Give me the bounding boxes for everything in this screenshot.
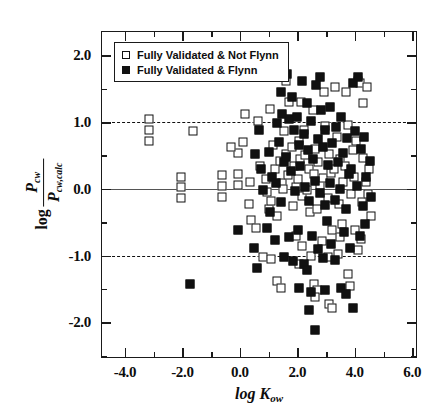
data-point-filled bbox=[307, 116, 316, 125]
data-point-filled bbox=[294, 283, 303, 292]
data-point-open bbox=[280, 127, 289, 136]
data-point-filled bbox=[320, 286, 329, 295]
y-axis-title: logPcwPcw,calc bbox=[23, 158, 64, 229]
filled-square-marker-icon bbox=[122, 66, 130, 74]
data-point-filled bbox=[332, 123, 341, 132]
x-tick-minor bbox=[326, 352, 328, 357]
x-tick-major bbox=[182, 348, 184, 357]
data-point-filled bbox=[356, 144, 365, 153]
data-point-filled bbox=[327, 239, 336, 248]
y-tick-label: 0.0 bbox=[73, 180, 91, 197]
data-point-filled bbox=[259, 186, 268, 195]
data-point-filled bbox=[334, 158, 343, 167]
x-tick-label: 0.0 bbox=[231, 364, 249, 381]
data-point-open bbox=[297, 242, 306, 251]
y-axis-denominator: Pcw,calc bbox=[44, 158, 64, 206]
data-point-open bbox=[218, 192, 227, 201]
data-point-open bbox=[244, 199, 253, 208]
data-point-filled bbox=[276, 198, 285, 207]
data-point-filled bbox=[309, 155, 318, 164]
x-axis-title: log Kow bbox=[101, 385, 417, 404]
data-point-filled bbox=[263, 223, 272, 232]
data-point-filled bbox=[318, 254, 327, 263]
data-point-filled bbox=[305, 196, 314, 205]
legend-label-flynn: Fully Validated & Flynn bbox=[137, 64, 257, 76]
data-point-filled bbox=[301, 183, 310, 192]
x-tick-minor bbox=[269, 32, 271, 37]
data-point-filled bbox=[307, 288, 316, 297]
y-tick-label: -2.0 bbox=[68, 314, 91, 331]
y-axis-fraction: PcwPcw,calc bbox=[23, 158, 64, 206]
data-point-filled bbox=[355, 231, 364, 240]
data-point-open bbox=[251, 223, 260, 232]
legend-item-flynn: Fully Validated & Flynn bbox=[122, 62, 279, 77]
data-point-filled bbox=[346, 243, 355, 252]
data-point-filled bbox=[335, 184, 344, 193]
data-point-filled bbox=[322, 216, 331, 225]
y-axis-numerator: Pcw bbox=[23, 158, 44, 206]
data-point-open bbox=[327, 226, 336, 235]
data-point-filled bbox=[279, 252, 288, 261]
data-point-open bbox=[145, 126, 154, 135]
data-point-filled bbox=[362, 172, 371, 181]
data-point-filled bbox=[257, 164, 266, 173]
y-tick-label: -1.0 bbox=[68, 247, 91, 264]
data-point-open bbox=[319, 88, 328, 97]
x-tick-major bbox=[297, 32, 299, 41]
y-tick-minor bbox=[411, 222, 416, 224]
y-tick-label: 2.0 bbox=[73, 47, 91, 64]
data-point-filled bbox=[302, 99, 311, 108]
data-point-open bbox=[358, 99, 367, 108]
data-point-filled bbox=[330, 195, 339, 204]
data-point-filled bbox=[294, 140, 303, 149]
y-tick-major bbox=[102, 322, 111, 324]
y-tick-major bbox=[102, 256, 111, 258]
y-tick-major bbox=[102, 55, 111, 57]
data-point-filled bbox=[303, 266, 312, 275]
legend-item-not-flynn: Fully Validated & Not Flynn bbox=[122, 47, 279, 62]
data-point-open bbox=[276, 283, 285, 292]
data-point-filled bbox=[311, 326, 320, 335]
data-point-open bbox=[189, 127, 198, 136]
x-tick-major bbox=[182, 32, 184, 41]
open-square-marker-icon bbox=[122, 51, 130, 59]
data-point-filled bbox=[315, 72, 324, 81]
data-point-filled bbox=[347, 164, 356, 173]
data-point-open bbox=[218, 182, 227, 191]
x-tick-label: 6.0 bbox=[403, 364, 421, 381]
data-point-open bbox=[234, 180, 243, 189]
y-tick-minor bbox=[102, 289, 107, 291]
chart-legend: Fully Validated & Not Flynn Fully Valida… bbox=[114, 42, 289, 82]
data-point-open bbox=[234, 170, 243, 179]
data-point-filled bbox=[358, 202, 367, 211]
data-point-filled bbox=[274, 138, 283, 147]
y-axis-log-label: log bbox=[33, 209, 50, 229]
data-point-filled bbox=[354, 72, 363, 81]
x-tick-minor bbox=[326, 32, 328, 37]
data-point-filled bbox=[328, 139, 337, 148]
data-point-filled bbox=[296, 162, 305, 171]
data-point-open bbox=[218, 171, 227, 180]
scatter-plot-figure: logPcwPcw,calc log Kow 2.01.00.0-1.0-2.0… bbox=[0, 0, 439, 418]
data-point-filled bbox=[299, 130, 308, 139]
data-point-open bbox=[266, 104, 275, 113]
data-point-filled bbox=[316, 106, 325, 115]
data-point-filled bbox=[293, 226, 302, 235]
data-point-filled bbox=[186, 279, 195, 288]
data-point-open bbox=[145, 136, 154, 145]
data-point-filled bbox=[339, 227, 348, 236]
data-point-open bbox=[241, 110, 250, 119]
x-tick-major bbox=[240, 32, 242, 41]
data-point-open bbox=[177, 172, 186, 181]
data-point-filled bbox=[337, 112, 346, 121]
x-tick-major bbox=[412, 32, 414, 41]
x-axis-title-main: log K bbox=[235, 385, 270, 402]
data-point-filled bbox=[266, 208, 275, 217]
data-point-filled bbox=[315, 188, 324, 197]
x-tick-major bbox=[125, 32, 127, 41]
data-point-filled bbox=[272, 119, 281, 128]
y-tick-minor bbox=[102, 89, 107, 91]
data-point-filled bbox=[308, 231, 317, 240]
data-point-filled bbox=[265, 148, 274, 157]
data-point-filled bbox=[318, 143, 327, 152]
